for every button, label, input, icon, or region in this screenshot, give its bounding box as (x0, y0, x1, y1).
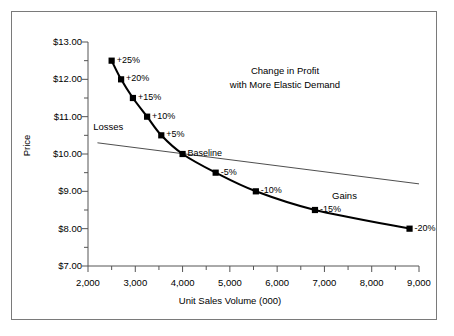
data-point-marker[interactable] (312, 207, 318, 213)
data-point-marker[interactable] (406, 226, 412, 232)
iso-profit-line (97, 143, 419, 184)
data-point-label: +15% (138, 93, 161, 102)
data-point-marker[interactable] (130, 95, 136, 101)
data-point-marker[interactable] (118, 76, 124, 82)
data-point-label: +25% (117, 56, 140, 65)
y-axis-tick-label: $7.00 (22, 261, 82, 271)
x-axis-title: Unit Sales Volume (000) (165, 296, 295, 306)
data-point-label: +10% (152, 112, 175, 121)
data-point-label: +20% (126, 74, 149, 83)
y-axis-tick-label: $10.00 (22, 149, 82, 159)
chart-title-line-1: Change in Profit (200, 66, 370, 76)
data-point-label: +5% (166, 130, 184, 139)
data-point-marker[interactable] (109, 58, 115, 64)
y-axis-tick-label: $8.00 (22, 224, 82, 234)
data-point-label: -10% (261, 186, 282, 195)
region-annotation: Losses (93, 122, 123, 132)
y-axis-title: Price (21, 116, 32, 176)
data-point-marker[interactable] (158, 132, 164, 138)
data-point-marker[interactable] (144, 114, 150, 120)
region-annotation: Gains (332, 191, 357, 201)
y-axis-tick-label: $12.00 (22, 74, 82, 84)
data-point-label: Baseline (188, 149, 223, 158)
chart-title-line-2: with More Elastic Demand (200, 80, 370, 90)
data-point-marker[interactable] (253, 188, 259, 194)
y-axis-tick-label: $11.00 (22, 112, 82, 122)
x-axis-tick-label: 9,000 (389, 278, 449, 288)
y-axis-tick-label: $13.00 (22, 37, 82, 47)
data-point-marker[interactable] (179, 151, 185, 157)
data-point-label: -5% (221, 168, 237, 177)
data-point-label: -15% (320, 205, 341, 214)
data-point-label: -20% (415, 224, 436, 233)
chart-plot-area: Price Change in Profit with More Elastic… (0, 0, 454, 336)
data-point-marker[interactable] (213, 170, 219, 176)
y-axis-tick-label: $9.00 (22, 186, 82, 196)
